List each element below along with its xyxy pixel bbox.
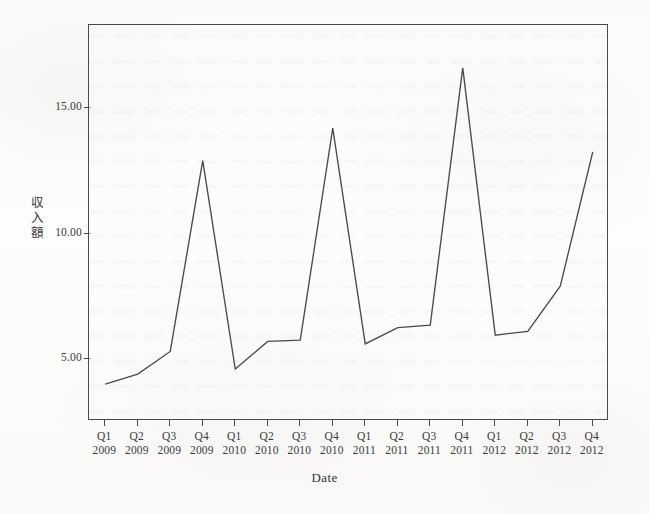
x-tick-quarter: Q3 (548, 429, 571, 443)
x-tick-year: 2011 (450, 443, 473, 457)
x-tick-year: 2011 (418, 443, 441, 457)
x-tick-label-group: Q12009 (93, 429, 116, 457)
x-tick-label-group: Q42012 (580, 429, 603, 457)
x-tick-label-group: Q22009 (125, 429, 148, 457)
x-tick-year: 2009 (190, 443, 213, 457)
x-tick-label-group: Q32012 (548, 429, 571, 457)
x-tick-year: 2010 (320, 443, 343, 457)
x-tick-label-group: Q42011 (450, 429, 473, 457)
x-tick-quarter: Q1 (223, 429, 246, 443)
x-tick-quarter: Q1 (483, 429, 506, 443)
x-tick-mark (364, 420, 365, 426)
x-tick-mark (332, 420, 333, 426)
x-tick-mark (592, 420, 593, 426)
x-tick-quarter: Q2 (385, 429, 408, 443)
x-tick-quarter: Q4 (320, 429, 343, 443)
x-tick-label-group: Q12011 (353, 429, 376, 457)
x-tick-mark (202, 420, 203, 426)
x-tick-mark (169, 420, 170, 426)
x-tick-year: 2010 (255, 443, 278, 457)
x-tick-quarter: Q2 (515, 429, 538, 443)
x-tick-mark (429, 420, 430, 426)
x-tick-mark (267, 420, 268, 426)
x-tick-year: 2009 (158, 443, 181, 457)
data-line-chart (89, 25, 609, 421)
x-tick-label-group: Q22010 (255, 429, 278, 457)
x-tick-year: 2010 (223, 443, 246, 457)
x-tick-label-group: Q32009 (158, 429, 181, 457)
x-tick-quarter: Q1 (93, 429, 116, 443)
x-tick-quarter: Q2 (255, 429, 278, 443)
x-tick-quarter: Q2 (125, 429, 148, 443)
x-tick-mark (527, 420, 528, 426)
x-tick-quarter: Q1 (353, 429, 376, 443)
plot-area (88, 24, 608, 420)
y-axis-title-char-1: 収 (28, 196, 46, 211)
x-tick-quarter: Q3 (418, 429, 441, 443)
x-tick-year: 2009 (125, 443, 148, 457)
x-tick-label-group: Q22012 (515, 429, 538, 457)
x-tick-label-group: Q12012 (483, 429, 506, 457)
x-axis-title: Date (0, 470, 649, 486)
x-tick-year: 2012 (580, 443, 603, 457)
x-tick-quarter: Q4 (450, 429, 473, 443)
x-tick-mark (397, 420, 398, 426)
x-tick-label-group: Q32011 (418, 429, 441, 457)
x-tick-quarter: Q3 (288, 429, 311, 443)
x-tick-mark (234, 420, 235, 426)
x-tick-label-group: Q12010 (223, 429, 246, 457)
x-tick-year: 2012 (515, 443, 538, 457)
x-tick-year: 2010 (288, 443, 311, 457)
x-tick-label-group: Q32010 (288, 429, 311, 457)
y-tick-label-15: 15.00 (38, 100, 82, 112)
x-tick-mark (494, 420, 495, 426)
x-tick-mark (104, 420, 105, 426)
x-tick-label-group: Q22011 (385, 429, 408, 457)
x-tick-year: 2009 (93, 443, 116, 457)
x-tick-year: 2011 (385, 443, 408, 457)
x-tick-quarter: Q4 (190, 429, 213, 443)
x-tick-mark (462, 420, 463, 426)
x-tick-mark (137, 420, 138, 426)
x-tick-mark (559, 420, 560, 426)
x-tick-year: 2011 (353, 443, 376, 457)
x-tick-year: 2012 (548, 443, 571, 457)
x-tick-label-group: Q42010 (320, 429, 343, 457)
y-tick-label-5: 5.00 (38, 351, 82, 363)
x-tick-quarter: Q3 (158, 429, 181, 443)
x-tick-label-group: Q42009 (190, 429, 213, 457)
income-series-line (105, 68, 593, 384)
x-tick-quarter: Q4 (580, 429, 603, 443)
chart-screenshot: 収 入 額 15.00 10.00 5.00 Q12009Q22009Q3200… (0, 0, 649, 514)
y-tick-label-10: 10.00 (38, 226, 82, 238)
y-axis-title-char-2: 入 (28, 211, 46, 226)
x-tick-year: 2012 (483, 443, 506, 457)
x-tick-mark (299, 420, 300, 426)
